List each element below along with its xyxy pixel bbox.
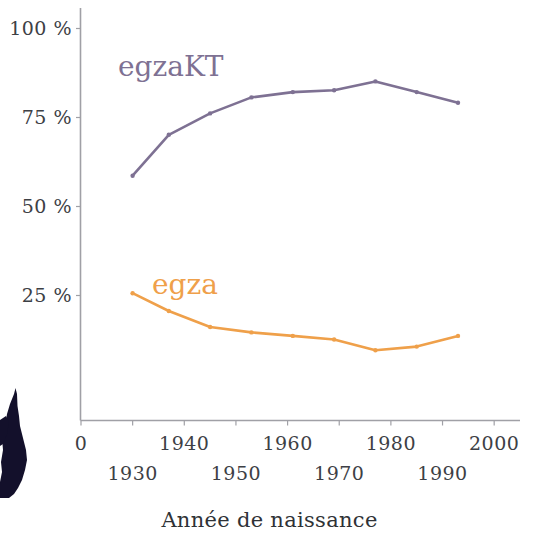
data-point-egzakt (291, 90, 295, 94)
x-tick-label: 1950 (211, 462, 261, 484)
series-line-egza (133, 293, 458, 350)
series-layer (130, 79, 460, 352)
x-tick-label: 1970 (314, 462, 364, 484)
data-point-egza (130, 291, 134, 295)
data-point-egza (291, 334, 295, 338)
data-point-egzakt (332, 88, 336, 92)
x-axis-title: Année de naissance (0, 508, 539, 532)
x-tick-label: 1980 (366, 432, 416, 454)
x-tick-label: 1990 (417, 462, 467, 484)
x-tick-label: 1930 (107, 462, 157, 484)
data-point-egza (456, 334, 460, 338)
series-label-egza: egza (152, 268, 218, 301)
series-label-egzakt: egzaKT (118, 50, 224, 83)
data-point-egzakt (130, 174, 134, 178)
data-point-egza (373, 348, 377, 352)
data-point-egzakt (208, 111, 212, 115)
y-tick-label: 25 % (0, 284, 72, 306)
data-point-egza (415, 344, 419, 348)
data-point-egzakt (456, 101, 460, 105)
series-line-egzakt (133, 81, 458, 175)
x-tick-label: 1960 (262, 432, 312, 454)
data-point-egzakt (249, 95, 253, 99)
data-point-egzakt (167, 133, 171, 137)
data-point-egza (208, 325, 212, 329)
chart-container: 100 % 75 % 50 % 25 % 0194019601980200019… (0, 0, 539, 547)
data-point-egza (332, 337, 336, 341)
data-point-egza (249, 330, 253, 334)
x-tick-label: 0 (75, 432, 88, 454)
data-point-egzakt (415, 90, 419, 94)
x-tick-label: 2000 (469, 432, 519, 454)
y-tick-label: 75 % (0, 106, 72, 128)
data-point-egzakt (373, 79, 377, 83)
data-point-egza (167, 309, 171, 313)
x-tick-label: 1940 (159, 432, 209, 454)
y-tick-label: 50 % (0, 195, 72, 217)
y-tick-label: 100 % (0, 17, 72, 39)
